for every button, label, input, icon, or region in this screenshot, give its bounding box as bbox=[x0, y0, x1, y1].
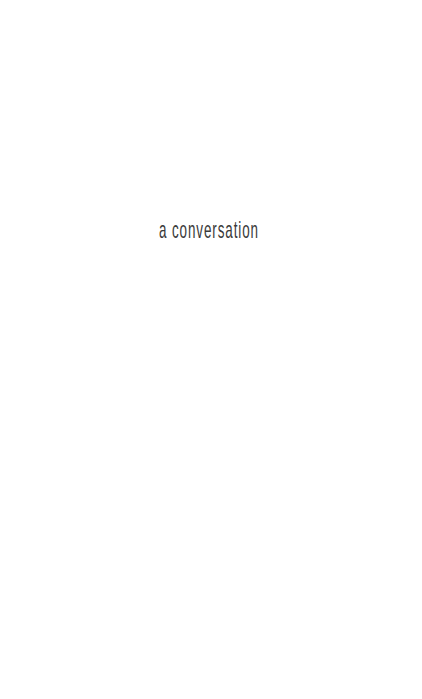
page-title: a conversation bbox=[159, 216, 259, 244]
title-page: a conversation bbox=[0, 0, 422, 699]
